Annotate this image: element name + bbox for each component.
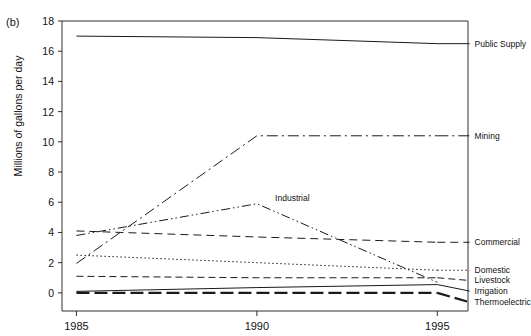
series-leader — [437, 285, 469, 291]
series-line — [76, 231, 437, 242]
series-line — [76, 204, 437, 283]
series-line — [76, 276, 437, 278]
series-leader — [437, 293, 469, 302]
series-line — [76, 136, 437, 264]
series-leader — [437, 278, 469, 281]
series-line — [76, 285, 437, 292]
series-line — [76, 36, 437, 44]
series-line — [76, 255, 437, 270]
axis-frame — [62, 21, 468, 311]
